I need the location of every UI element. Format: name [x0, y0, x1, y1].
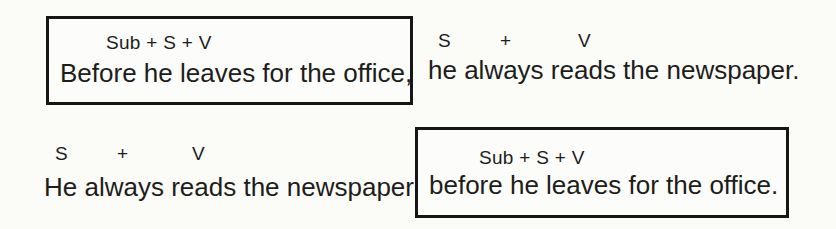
- formula-label-s-row2: S: [55, 144, 68, 163]
- adverb-clause-sentence-row1: Before he leaves for the office,: [60, 60, 412, 86]
- formula-label-s-row1: S: [438, 31, 451, 50]
- formula-label-sub-s-v-row2: Sub + S + V: [479, 148, 585, 167]
- adverb-clause-box-row1: Sub + S + V Before he leaves for the off…: [46, 16, 413, 105]
- adverb-clause-position-diagram: Sub + S + V Before he leaves for the off…: [0, 0, 836, 229]
- adverb-clause-sentence-row2: before he leaves for the office.: [429, 172, 778, 198]
- formula-label-plus-row2: +: [117, 144, 128, 163]
- adverb-clause-box-row2: Sub + S + V before he leaves for the off…: [415, 127, 789, 218]
- formula-label-plus-row1: +: [500, 31, 511, 50]
- main-clause-sentence-row2: He always reads the newspaper: [44, 174, 414, 200]
- formula-label-sub-s-v-row1: Sub + S + V: [106, 33, 212, 52]
- formula-label-v-row1: V: [578, 31, 591, 50]
- formula-label-v-row2: V: [192, 144, 205, 163]
- main-clause-sentence-row1: he always reads the newspaper.: [428, 57, 799, 83]
